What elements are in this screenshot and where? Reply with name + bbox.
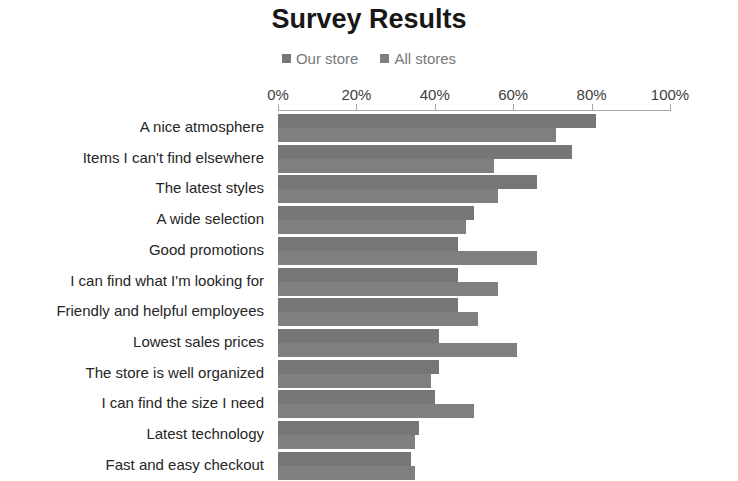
y-axis-category-label: A wide selection xyxy=(0,211,272,227)
bar-all-stores[interactable] xyxy=(278,128,556,142)
survey-results-chart: Survey Results Our store All stores 0%20… xyxy=(0,0,738,481)
bar-group xyxy=(278,421,670,449)
plot-area xyxy=(278,112,670,481)
x-tick-mark xyxy=(435,104,436,111)
y-axis-category-label: I can find the size I need xyxy=(0,395,272,411)
legend-item-our-store[interactable]: Our store xyxy=(282,50,359,67)
y-axis-category-label: A nice atmosphere xyxy=(0,119,272,135)
bar-our-store[interactable] xyxy=(278,114,596,128)
bar-all-stores[interactable] xyxy=(278,189,498,203)
x-tick-mark xyxy=(592,104,593,111)
bar-all-stores[interactable] xyxy=(278,404,474,418)
bar-our-store[interactable] xyxy=(278,145,572,159)
bar-our-store[interactable] xyxy=(278,175,537,189)
x-tick-mark xyxy=(278,104,279,111)
legend-swatch-icon xyxy=(380,54,389,63)
bar-our-store[interactable] xyxy=(278,452,411,466)
bar-group xyxy=(278,452,670,480)
bar-our-store[interactable] xyxy=(278,206,474,220)
y-axis-category-label: Fast and easy checkout xyxy=(0,457,272,473)
bar-group xyxy=(278,268,670,296)
y-axis-category-label: I can find what I'm looking for xyxy=(0,273,272,289)
legend-item-all-stores[interactable]: All stores xyxy=(380,50,456,67)
x-tick-label: 100% xyxy=(651,86,689,103)
bar-group xyxy=(278,145,670,173)
x-tick-mark xyxy=(513,104,514,111)
x-tick-label: 80% xyxy=(577,86,607,103)
bar-all-stores[interactable] xyxy=(278,282,498,296)
y-axis-category-labels: A nice atmosphereItems I can't find else… xyxy=(0,112,272,481)
chart-title: Survey Results xyxy=(0,4,738,35)
bar-all-stores[interactable] xyxy=(278,343,517,357)
bar-our-store[interactable] xyxy=(278,268,458,282)
bar-group xyxy=(278,360,670,388)
x-tick-mark xyxy=(356,104,357,111)
bar-our-store[interactable] xyxy=(278,390,435,404)
x-axis-tick-labels: 0%20%40%60%80%100% xyxy=(278,86,670,104)
y-axis-category-label: Lowest sales prices xyxy=(0,334,272,350)
bar-our-store[interactable] xyxy=(278,237,458,251)
x-tick-label: 60% xyxy=(498,86,528,103)
x-tick-label: 20% xyxy=(341,86,371,103)
y-axis-category-label: Friendly and helpful employees xyxy=(0,303,272,319)
x-tick-label: 0% xyxy=(267,86,289,103)
bar-our-store[interactable] xyxy=(278,360,439,374)
bar-all-stores[interactable] xyxy=(278,251,537,265)
y-axis-category-label: Items I can't find elsewhere xyxy=(0,150,272,166)
bar-group xyxy=(278,329,670,357)
y-axis-category-label: Latest technology xyxy=(0,426,272,442)
legend-label-our-store: Our store xyxy=(296,50,359,67)
bar-all-stores[interactable] xyxy=(278,312,478,326)
bar-group xyxy=(278,390,670,418)
bar-all-stores[interactable] xyxy=(278,220,466,234)
bar-group xyxy=(278,175,670,203)
bar-all-stores[interactable] xyxy=(278,466,415,480)
bar-group xyxy=(278,237,670,265)
y-axis-category-label: The latest styles xyxy=(0,180,272,196)
bar-all-stores[interactable] xyxy=(278,374,431,388)
bar-group xyxy=(278,114,670,142)
legend-swatch-icon xyxy=(282,54,291,63)
bar-our-store[interactable] xyxy=(278,421,419,435)
x-axis-line xyxy=(278,110,670,111)
bar-our-store[interactable] xyxy=(278,329,439,343)
y-axis-category-label: Good promotions xyxy=(0,242,272,258)
x-tick-label: 40% xyxy=(420,86,450,103)
bar-group xyxy=(278,206,670,234)
bar-group xyxy=(278,298,670,326)
legend-label-all-stores: All stores xyxy=(394,50,456,67)
x-tick-mark xyxy=(670,104,671,111)
bar-all-stores[interactable] xyxy=(278,159,494,173)
chart-legend: Our store All stores xyxy=(0,50,738,67)
bar-our-store[interactable] xyxy=(278,298,458,312)
y-axis-category-label: The store is well organized xyxy=(0,365,272,381)
bar-all-stores[interactable] xyxy=(278,435,415,449)
